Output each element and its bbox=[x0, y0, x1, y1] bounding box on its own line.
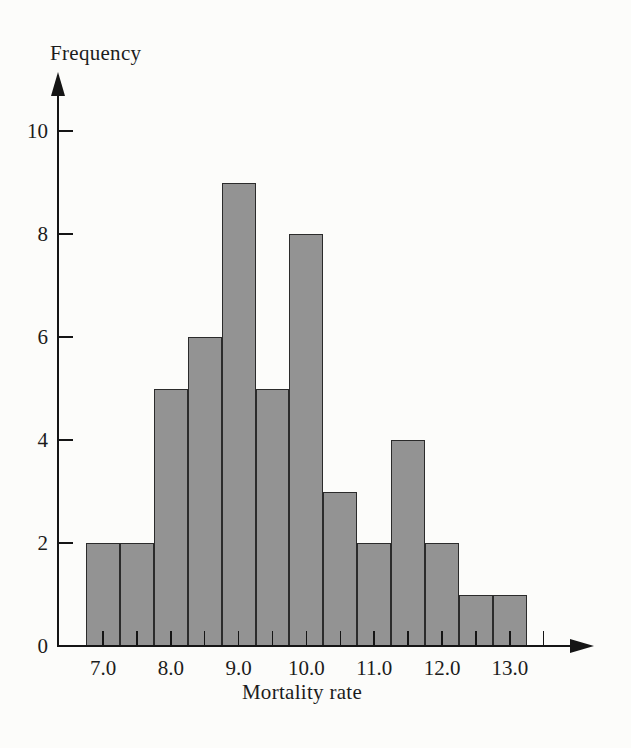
y-tick-label: 6 bbox=[0, 326, 48, 348]
histogram-bar bbox=[154, 389, 188, 648]
y-axis-tick bbox=[58, 233, 73, 235]
y-axis-tick bbox=[58, 130, 73, 132]
y-tick-label: 0 bbox=[0, 635, 48, 657]
x-axis-arrowhead-icon bbox=[570, 639, 594, 653]
y-axis-line bbox=[57, 88, 60, 647]
histogram-bar bbox=[188, 337, 222, 647]
x-axis-tick bbox=[306, 631, 308, 645]
x-tick-label: 13.0 bbox=[478, 657, 542, 679]
x-tick-label: 8.0 bbox=[139, 657, 203, 679]
x-axis-tick bbox=[373, 631, 375, 645]
x-axis-tick bbox=[102, 631, 104, 645]
x-axis-tick bbox=[340, 631, 342, 645]
y-tick-label: 2 bbox=[0, 532, 48, 554]
x-axis-tick bbox=[441, 631, 443, 645]
histogram-plot-area: 02468107.08.09.010.011.012.013.0 bbox=[0, 0, 631, 748]
y-axis-tick bbox=[58, 336, 73, 338]
y-tick-label: 10 bbox=[0, 120, 48, 142]
histogram-bar bbox=[391, 440, 425, 647]
x-axis-line bbox=[57, 645, 574, 648]
x-axis-tick bbox=[238, 631, 240, 645]
x-axis-tick bbox=[475, 631, 477, 645]
histogram-bar bbox=[222, 183, 256, 648]
x-axis-title: Mortality rate bbox=[212, 680, 392, 705]
x-axis-tick bbox=[543, 631, 545, 645]
scanned-textbook-figure: Frequency 02468107.08.09.010.011.012.013… bbox=[0, 0, 631, 748]
x-axis-tick bbox=[136, 631, 138, 645]
x-axis-tick bbox=[170, 631, 172, 645]
y-axis-tick bbox=[58, 439, 73, 441]
histogram-bar bbox=[323, 492, 357, 648]
x-tick-label: 12.0 bbox=[410, 657, 474, 679]
x-axis-tick bbox=[509, 631, 511, 645]
x-axis-tick bbox=[204, 631, 206, 645]
histogram-bar bbox=[256, 389, 290, 648]
x-tick-label: 9.0 bbox=[207, 657, 271, 679]
x-axis-tick bbox=[272, 631, 274, 645]
y-axis-arrowhead-icon bbox=[51, 72, 65, 96]
y-tick-label: 8 bbox=[0, 223, 48, 245]
y-tick-label: 4 bbox=[0, 429, 48, 451]
y-axis-tick bbox=[58, 542, 73, 544]
histogram-bar bbox=[289, 234, 323, 647]
x-tick-label: 10.0 bbox=[274, 657, 338, 679]
x-axis-tick bbox=[407, 631, 409, 645]
x-tick-label: 11.0 bbox=[342, 657, 406, 679]
x-tick-label: 7.0 bbox=[71, 657, 135, 679]
